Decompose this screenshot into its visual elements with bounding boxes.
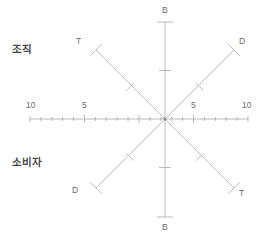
row-label-consumer: 소비자 [12, 154, 42, 169]
axes-drawing [0, 0, 273, 241]
x-tick-label-left-5: 5 [82, 100, 87, 110]
x-tick-label-right-10: 10 [242, 100, 251, 110]
endpoint-label-upper-right-d: D [239, 36, 245, 46]
row-label-organization: 조직 [12, 41, 32, 56]
origin-point [163, 117, 166, 120]
endpoint-label-lower-right-t: T [239, 188, 244, 198]
x-tick-label-right-5: 5 [191, 100, 196, 110]
x-tick-label-left-10: 10 [26, 100, 35, 110]
endpoint-label-top-b: B [162, 5, 168, 15]
radial-axis-figure: 조직 소비자 10 5 5 10 B B T D D T [0, 0, 273, 241]
x-axis-ticks [30, 115, 248, 123]
endpoint-label-lower-left-d: D [72, 185, 78, 195]
endpoint-label-upper-left-t: T [76, 36, 81, 46]
endpoint-label-bottom-b: B [162, 222, 168, 232]
